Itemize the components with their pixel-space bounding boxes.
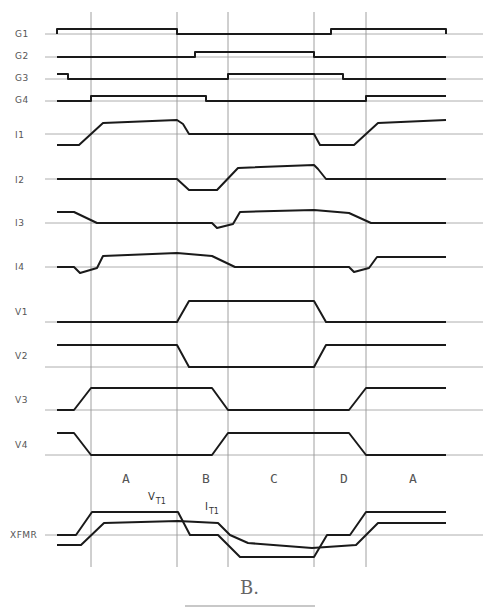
region-label-a: A	[409, 471, 417, 486]
signal-label-xfmr: XFMR	[10, 530, 37, 540]
signal-baselines	[45, 34, 483, 455]
trace-i3	[57, 210, 446, 228]
panel-label: B.	[240, 577, 259, 598]
trace-g2	[57, 52, 446, 57]
signal-traces	[57, 29, 446, 455]
signal-label-i3: I3	[15, 218, 24, 228]
signal-label-i1: I1	[15, 130, 24, 140]
signal-labels: G1G2G3G4I1I2I3I4V1V2V3V4	[15, 29, 29, 450]
signal-label-i4: I4	[15, 262, 24, 272]
trace-i1	[57, 120, 446, 145]
trace-i2	[57, 165, 446, 190]
trace-g1	[57, 29, 446, 34]
signal-label-v2: V2	[15, 351, 28, 361]
annotation-vt1: VT1	[148, 491, 166, 506]
region-label-c: C	[270, 471, 278, 486]
region-label-d: D	[340, 471, 348, 486]
signal-label-i2: I2	[15, 175, 24, 185]
trace-g4	[57, 96, 446, 101]
timing-diagram: G1G2G3G4I1I2I3I4V1V2V3V4 ABCDA XFMRVT1IT…	[0, 0, 494, 609]
signal-label-g3: G3	[15, 73, 29, 83]
trace-g3	[57, 74, 446, 79]
annotation-it1: IT1	[205, 501, 219, 516]
trace-v4	[57, 433, 446, 455]
trace-v2	[57, 345, 446, 367]
trace-v1	[57, 301, 446, 322]
figure-caption-cropped	[185, 605, 315, 607]
signal-label-v4: V4	[15, 440, 28, 450]
region-label-a: A	[122, 471, 130, 486]
signal-label-v3: V3	[15, 395, 28, 405]
trace-xfmr-voltage	[57, 512, 446, 557]
region-labels: ABCDA	[122, 471, 417, 486]
signal-label-g1: G1	[15, 29, 29, 39]
trace-v3	[57, 388, 446, 410]
region-label-b: B	[202, 471, 210, 486]
trace-i4	[57, 253, 446, 273]
xfmr-waveform: XFMRVT1IT1	[10, 491, 483, 557]
signal-label-g2: G2	[15, 51, 29, 61]
trace-xfmr-current	[57, 521, 446, 548]
signal-label-g4: G4	[15, 95, 29, 105]
signal-label-v1: V1	[15, 307, 28, 317]
